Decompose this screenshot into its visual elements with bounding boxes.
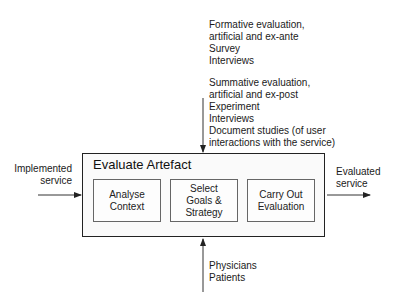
control-line: Experiment	[209, 101, 335, 113]
output-label: Evaluated service	[336, 166, 380, 190]
step-select-goals: Select Goals & Strategy	[170, 179, 238, 222]
step-carry-out-evaluation: Carry Out Evaluation	[247, 179, 315, 222]
mechanism-line: Physicians	[209, 260, 257, 272]
mechanism-line: Patients	[209, 272, 257, 284]
step-label: Select Goals & Strategy	[185, 183, 222, 219]
summative-controls: Summative evaluation, artificial and ex-…	[209, 77, 335, 149]
formative-controls: Formative evaluation, artificial and ex-…	[209, 19, 305, 67]
control-line: Summative evaluation,	[209, 77, 335, 89]
process-box: Evaluate Artefact Analyse Context Select…	[82, 153, 325, 237]
control-line: artificial and ex-ante	[209, 31, 305, 43]
process-title: Evaluate Artefact	[93, 157, 191, 173]
step-label: Analyse Context	[109, 189, 145, 213]
control-line: Document studies (of user	[209, 125, 335, 137]
input-label: Implemented service	[14, 163, 72, 187]
control-line: interactions with the service)	[209, 137, 335, 149]
control-line: Interviews	[209, 113, 335, 125]
step-analyse-context: Analyse Context	[93, 179, 161, 222]
control-line: Interviews	[209, 55, 305, 67]
step-label: Carry Out Evaluation	[258, 189, 305, 213]
control-line: artificial and ex-post	[209, 89, 335, 101]
mechanisms: Physicians Patients	[209, 260, 257, 284]
arrows-layer	[0, 0, 398, 303]
control-line: Survey	[209, 43, 305, 55]
control-line: Formative evaluation,	[209, 19, 305, 31]
